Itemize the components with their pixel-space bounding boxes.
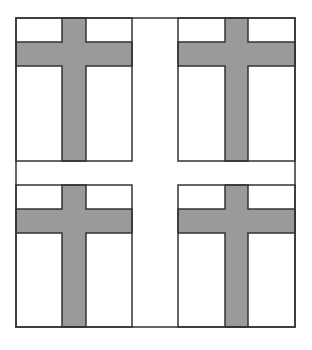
panels-group bbox=[16, 18, 295, 327]
panel-bottom-left bbox=[16, 185, 132, 327]
panel-top-left bbox=[16, 18, 132, 161]
panel-bottom-right bbox=[178, 185, 295, 327]
window-pattern-diagram bbox=[0, 0, 312, 350]
panel-top-right bbox=[178, 18, 295, 161]
